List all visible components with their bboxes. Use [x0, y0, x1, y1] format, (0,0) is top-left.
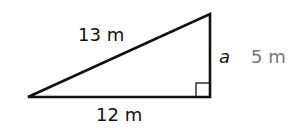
triangle-figure [0, 0, 300, 135]
side-variable-label: a [219, 48, 230, 66]
right-angle-marker [196, 83, 210, 97]
base-label: 12 m [96, 106, 142, 124]
hypotenuse-label: 13 m [78, 26, 124, 44]
side-answer-label: 5 m [251, 48, 286, 66]
